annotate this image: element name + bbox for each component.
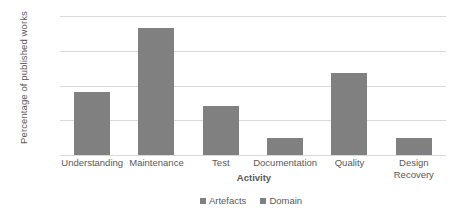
bar-slot (124, 16, 188, 155)
bar[interactable] (203, 106, 239, 155)
x-tick-label: Documentation (253, 157, 317, 169)
legend-swatch-icon (260, 198, 266, 204)
bar[interactable] (267, 138, 303, 155)
bar[interactable] (396, 138, 432, 155)
x-tick-label-line: Documentation (253, 157, 317, 169)
bars-layer (60, 16, 446, 155)
x-tick-label: Maintenance (124, 157, 188, 169)
x-tick-label: Understanding (60, 157, 124, 169)
legend-swatch-icon (200, 198, 206, 204)
y-axis-title: Percentage of published works (18, 3, 29, 153)
bar[interactable] (331, 73, 367, 155)
gridline (60, 155, 446, 156)
plot-area: 40%30%20%10%0% (60, 16, 446, 155)
x-tick-label: Quality (317, 157, 381, 169)
bar[interactable] (138, 28, 174, 155)
legend-item[interactable]: Domain (260, 195, 302, 206)
x-axis-title: Activity (0, 172, 460, 183)
bar-slot (60, 16, 124, 155)
bar-chart: Percentage of published works 40%30%20%1… (0, 0, 460, 216)
legend-label: Artefacts (209, 195, 247, 206)
x-tick-label-line: Design (382, 157, 446, 169)
x-tick-label-line: Test (189, 157, 253, 169)
legend-item[interactable]: Artefacts (200, 195, 247, 206)
bar-slot (317, 16, 381, 155)
x-tick-label: Test (189, 157, 253, 169)
bar-slot (253, 16, 317, 155)
bar-slot (189, 16, 253, 155)
x-tick-label-line: Maintenance (124, 157, 188, 169)
legend-label: Domain (269, 195, 302, 206)
bar[interactable] (74, 92, 110, 155)
chart-legend: ArtefactsDomain (0, 195, 460, 206)
bar-slot (382, 16, 446, 155)
x-tick-label-line: Quality (317, 157, 381, 169)
x-tick-label-line: Understanding (60, 157, 124, 169)
